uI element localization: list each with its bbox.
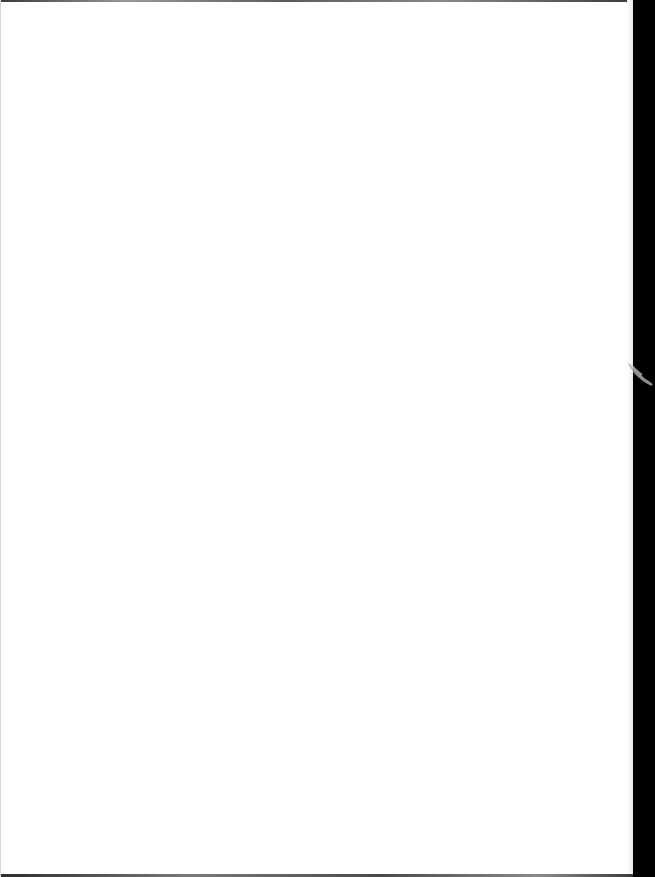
scanned-document [0,0,655,877]
blank-page [0,0,633,877]
scan-smudge-artifact [626,360,654,388]
scanner-background-strip [633,0,655,877]
page-top-edge [1,0,634,2]
